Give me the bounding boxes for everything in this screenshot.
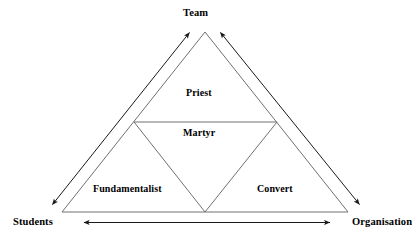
region-label-fundamentalist: Fundamentalist (93, 184, 162, 194)
axis-arrow-students-team (53, 33, 190, 205)
region-label-convert: Convert (257, 184, 293, 194)
triangle-diagram-graphic (0, 0, 420, 241)
axis-label-team: Team (183, 8, 208, 19)
axis-label-organisation: Organisation (352, 217, 412, 228)
region-label-priest: Priest (186, 88, 212, 98)
diagram-canvas: Team Students Organisation Priest Martyr… (0, 0, 420, 241)
inner-right-diagonal (205, 122, 277, 212)
axis-arrow-team-organisation (221, 33, 360, 205)
axis-label-students: Students (13, 217, 53, 228)
region-label-martyr: Martyr (183, 128, 215, 138)
